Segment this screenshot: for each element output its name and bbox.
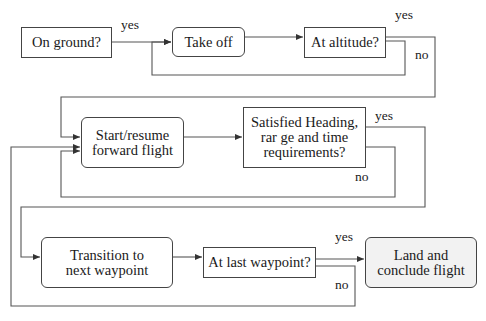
node-satisfied-label: Satisfied Heading, rar ge and time requi…	[250, 115, 359, 160]
edge-label-at-altitude-yes: yes	[395, 8, 413, 22]
node-forward-flight: Start/resume forward flight	[81, 117, 184, 168]
edge-label-last-waypoint-no: no	[335, 278, 349, 292]
node-last-waypoint-label: At last waypoint?	[208, 255, 310, 270]
node-transition: Transition to next waypoint	[41, 237, 173, 288]
node-land-conclude: Land and conclude flight	[365, 237, 477, 288]
node-last-waypoint: At last waypoint?	[203, 247, 316, 278]
flowchart-canvas: On ground? Take off At altitude? Start/r…	[0, 0, 486, 321]
node-take-off: Take off	[172, 27, 245, 57]
edge-label-last-waypoint-yes: yes	[335, 230, 353, 244]
node-forward-flight-label: Start/resume forward flight	[90, 128, 175, 158]
node-on-ground-label: On ground?	[32, 35, 101, 50]
node-on-ground: On ground?	[21, 27, 112, 58]
node-transition-label: Transition to next waypoint	[58, 248, 156, 278]
edge-label-at-altitude-no: no	[415, 48, 429, 62]
node-land-label: Land and conclude flight	[376, 248, 466, 278]
edge-label-satisfied-yes: yes	[375, 109, 393, 123]
node-take-off-label: Take off	[184, 35, 232, 50]
edge-label-satisfied-no: no	[355, 170, 369, 184]
node-satisfied-requirements: Satisfied Heading, rar ge and time requi…	[243, 107, 366, 168]
node-at-altitude: At altitude?	[304, 27, 386, 58]
node-at-altitude-label: At altitude?	[311, 35, 379, 50]
edge-label-on-ground-yes: yes	[121, 18, 139, 32]
